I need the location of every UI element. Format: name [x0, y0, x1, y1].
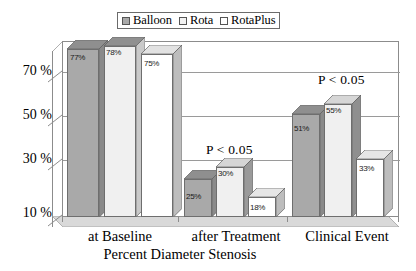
legend-item-rota: Rota: [179, 14, 213, 27]
bar-value-label: 18%: [250, 203, 265, 212]
bar-side-face: [384, 150, 393, 217]
bar-after-treatment-rota: 30%: [216, 167, 244, 217]
bar-front-face: [67, 49, 99, 217]
x-tick-3: [398, 217, 399, 222]
bar-value-label: 25%: [186, 192, 201, 201]
bar-clinical-event-balloon: 51%: [292, 114, 320, 217]
bar-value-label: 77%: [70, 53, 85, 62]
bar-value-label: 30%: [218, 169, 233, 178]
bar-baseline-rotaplus: 75%: [141, 54, 173, 217]
bar-front-face: [141, 54, 173, 217]
x-category-label-at-baseline: at Baseline: [60, 228, 180, 244]
legend-swatch-rotaplus-icon: [220, 17, 228, 25]
legend-label-rota: Rota: [190, 14, 213, 27]
bar-baseline-rota: 78%: [104, 46, 136, 217]
bar-after-treatment-balloon: 25%: [184, 179, 212, 217]
legend-swatch-rota-icon: [179, 17, 187, 25]
chart-container: Balloon Rota RotaPlus 70 % 50 % 30 % 10 …: [0, 0, 416, 271]
bar-baseline-balloon: 77%: [67, 49, 99, 217]
bar-value-label: 55%: [326, 106, 341, 115]
x-axis-title: Percent Diameter Stenosis: [103, 246, 256, 262]
x-tick-2: [287, 217, 288, 222]
annotation-p-value-after-treatment: P < 0.05: [206, 143, 253, 157]
legend-swatch-balloon-icon: [122, 17, 130, 25]
bar-front-face: [324, 104, 352, 217]
bar-clinical-event-rota: 55%: [324, 104, 352, 217]
chart-legend: Balloon Rota RotaPlus: [117, 12, 280, 29]
x-axis-title-wrap: Percent Diameter Stenosis: [0, 246, 416, 262]
bar-clinical-event-rotaplus: 33%: [356, 159, 384, 217]
bar-value-label: 78%: [106, 48, 121, 57]
bar-value-label: 33%: [359, 164, 374, 173]
bar-value-label: 51%: [294, 124, 309, 133]
bar-side-face: [276, 188, 285, 217]
x-category-label-after-treatment: after Treatment: [172, 228, 300, 244]
annotation-p-value-clinical-event: P < 0.05: [318, 73, 365, 87]
bar-value-label: 75%: [144, 59, 159, 68]
x-tick-0: [62, 217, 63, 222]
bar-after-treatment-rotaplus: 18%: [248, 197, 276, 217]
bar-front-face: [104, 46, 136, 217]
x-tick-1: [178, 217, 179, 222]
legend-item-balloon: Balloon: [122, 14, 172, 27]
legend-item-rotaplus: RotaPlus: [220, 14, 275, 27]
x-category-label-clinical-event: Clinical Event: [288, 228, 406, 244]
legend-label-rotaplus: RotaPlus: [231, 14, 275, 27]
y-axis-ticks: [44, 41, 64, 231]
bar-side-face: [173, 45, 182, 217]
legend-label-balloon: Balloon: [133, 14, 172, 27]
plot-floor: [52, 216, 399, 227]
